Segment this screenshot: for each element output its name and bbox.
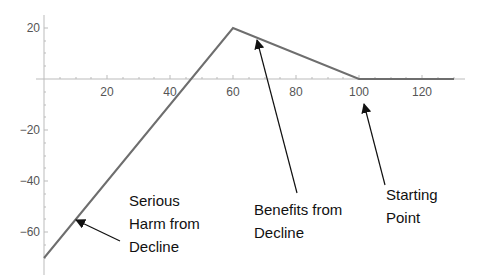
svg-text:Decline: Decline	[254, 224, 304, 241]
svg-text:Decline: Decline	[129, 238, 179, 255]
y-axis	[44, 15, 48, 275]
y-tick: −40	[20, 174, 41, 188]
x-tick: 100	[349, 85, 369, 99]
y-tick: −20	[20, 123, 41, 137]
y-tick-labels: 20 −20 −40 −60	[20, 21, 41, 239]
svg-text:Harm from: Harm from	[129, 215, 200, 232]
annotation-starting-point: Starting Point	[386, 186, 438, 226]
x-tick: 40	[163, 85, 177, 99]
x-tick: 60	[226, 85, 240, 99]
x-tick-labels: 20 40 60 80 100 120	[100, 85, 432, 99]
annotation-serious-harm: Serious Harm from Decline	[129, 192, 200, 255]
svg-text:Point: Point	[386, 209, 421, 226]
y-tick: −60	[20, 225, 41, 239]
chart: 20 40 60 80 100 120 20 −20 −40 −60 Serio…	[0, 0, 477, 279]
x-tick: 20	[100, 85, 114, 99]
annotation-benefits: Benefits from Decline	[254, 201, 342, 241]
x-tick: 120	[412, 85, 432, 99]
svg-text:Starting: Starting	[386, 186, 438, 203]
x-tick: 80	[289, 85, 303, 99]
arrow-serious-harm	[76, 220, 120, 241]
arrow-starting-point	[364, 104, 385, 185]
y-tick: 20	[27, 21, 41, 35]
svg-text:Serious: Serious	[129, 192, 180, 209]
svg-text:Benefits from: Benefits from	[254, 201, 342, 218]
arrow-benefits	[257, 40, 297, 193]
